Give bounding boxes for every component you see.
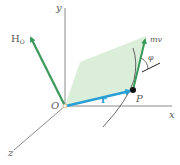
angle-label: φ [148,54,154,62]
origin-label: O [51,101,59,111]
reference-line [142,63,160,72]
point-label: P [136,94,143,104]
angular-momentum-label: HO [11,34,25,45]
angular-momentum-vector [31,38,65,106]
z-axis-label: z [8,148,13,158]
origin-point [63,104,67,108]
y-axis-label: y [56,3,62,13]
angular-momentum-diagram: y x z O HO r mv P φ [0,0,180,165]
diagram-canvas [0,0,180,165]
z-axis [14,106,65,150]
angle-arc [141,58,148,69]
position-vector-label: r [101,95,106,105]
x-axis-label: x [169,110,175,120]
linear-momentum-label: mv [150,36,162,44]
